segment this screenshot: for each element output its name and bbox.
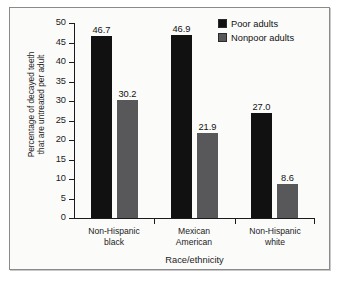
bar-poor: 46.7: [91, 36, 112, 218]
y-axis-line: [74, 23, 75, 219]
bar-value-label: 46.7: [92, 25, 110, 35]
plot-area: 05101520253035404550 46.730.246.921.927.…: [74, 23, 315, 219]
legend-swatch-icon: [218, 33, 227, 42]
y-axis-tick: 10: [69, 179, 74, 180]
y-axis-tick-label: 35: [56, 76, 66, 86]
bar-nonpoor: 30.2: [117, 100, 138, 218]
y-axis-tick: 45: [69, 43, 74, 44]
legend-swatch-icon: [218, 19, 227, 28]
y-axis-tick: 50: [69, 23, 74, 24]
x-axis-title: Race/ethnicity: [74, 255, 315, 265]
bar-value-label: 30.2: [118, 89, 136, 99]
bar-value-label: 46.9: [172, 24, 190, 34]
y-axis-tick: 15: [69, 160, 74, 161]
y-axis-tick: 25: [69, 121, 74, 122]
bar-poor: 27.0: [251, 113, 272, 218]
x-axis-tick: [314, 219, 315, 224]
bar-value-label: 27.0: [252, 102, 270, 112]
legend-item: Poor adults: [218, 17, 294, 30]
x-axis-tick: [235, 219, 236, 224]
legend: Poor adultsNonpoor adults: [218, 17, 294, 45]
bar-value-label: 21.9: [198, 122, 216, 132]
y-axis-tick: 40: [69, 62, 74, 63]
y-axis-tick-label: 45: [56, 37, 66, 47]
x-axis-tick: [154, 219, 155, 224]
y-axis-tick: 20: [69, 140, 74, 141]
y-axis-tick: 30: [69, 101, 74, 102]
y-axis-tick-label: 25: [56, 115, 66, 125]
legend-label: Nonpoor adults: [231, 33, 294, 43]
legend-label: Poor adults: [231, 19, 278, 29]
y-axis-tick-label: 10: [56, 173, 66, 183]
y-axis-tick-label: 50: [56, 17, 66, 27]
y-axis-tick-label: 5: [61, 193, 66, 203]
bar-value-label: 8.6: [281, 173, 294, 183]
y-axis-tick-label: 15: [56, 154, 66, 164]
x-axis-category-label: Mexican American: [154, 226, 234, 247]
y-axis-tick: 0: [69, 218, 74, 219]
x-axis-category-label: Non-Hispanic black: [74, 226, 154, 247]
figure: Percentage of decayed teeth that are unt…: [0, 0, 343, 283]
y-axis-tick: 35: [69, 82, 74, 83]
y-axis-title: Percentage of decayed teeth that are unt…: [26, 14, 47, 194]
legend-item: Nonpoor adults: [218, 31, 294, 44]
y-axis-tick: 5: [69, 199, 74, 200]
y-axis-tick-label: 30: [56, 95, 66, 105]
x-axis-category-label: Non-Hispanic white: [235, 226, 315, 247]
bar-nonpoor: 8.6: [277, 184, 298, 218]
chart-frame: Percentage of decayed teeth that are unt…: [9, 7, 330, 270]
y-axis-tick-label: 40: [56, 56, 66, 66]
x-axis-line: [74, 218, 315, 219]
bar-poor: 46.9: [171, 35, 192, 218]
y-axis-tick-label: 20: [56, 134, 66, 144]
bar-nonpoor: 21.9: [197, 133, 218, 218]
y-axis-tick-label: 0: [61, 212, 66, 222]
